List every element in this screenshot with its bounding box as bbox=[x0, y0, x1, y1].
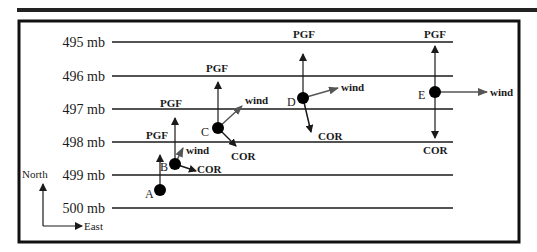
point-label: D bbox=[287, 95, 296, 109]
point-label: C bbox=[201, 125, 209, 139]
wind-label: wind bbox=[490, 86, 513, 98]
cor-label: COR bbox=[423, 144, 449, 156]
cor-label: COR bbox=[231, 150, 257, 162]
isobar-label: 500 mb bbox=[63, 201, 105, 216]
isobar-label: 496 mb bbox=[63, 69, 105, 84]
isobar-label: 499 mb bbox=[63, 168, 105, 183]
air-parcel-dot bbox=[429, 86, 441, 98]
point-e: E PGF wind COR bbox=[418, 28, 513, 156]
isobar-label: 497 mb bbox=[63, 102, 105, 117]
point-label: A bbox=[145, 187, 154, 201]
geostrophic-wind-diagram: 495 mb 496 mb 497 mb 498 mb 499 mb 500 m… bbox=[0, 0, 537, 252]
wind-label: wind bbox=[245, 94, 268, 106]
cor-label: COR bbox=[318, 130, 344, 142]
point-label: B bbox=[160, 160, 168, 174]
air-parcel-dot bbox=[154, 184, 166, 196]
air-parcel-dot bbox=[297, 92, 309, 104]
air-parcel-dot bbox=[169, 158, 181, 170]
compass-east-label: East bbox=[84, 220, 103, 232]
isobar-labels: 495 mb 496 mb 497 mb 498 mb 499 mb 500 m… bbox=[63, 35, 105, 216]
top-rule bbox=[17, 8, 537, 12]
isobar-label: 495 mb bbox=[63, 35, 105, 50]
pgf-label: PGF bbox=[293, 28, 315, 40]
air-parcel-dot bbox=[212, 122, 224, 134]
compass-north-label: North bbox=[22, 168, 48, 180]
point-d: D PGF wind COR bbox=[287, 28, 364, 142]
point-label: E bbox=[418, 88, 425, 102]
wind-label: wind bbox=[341, 81, 364, 93]
pgf-label: PGF bbox=[160, 97, 182, 109]
point-c: C PGF wind COR bbox=[201, 62, 268, 162]
wind-label: wind bbox=[186, 144, 209, 156]
isobar-label: 498 mb bbox=[63, 135, 105, 150]
pgf-label: PGF bbox=[146, 129, 168, 141]
pgf-label: PGF bbox=[424, 28, 446, 40]
isobars bbox=[112, 42, 453, 208]
pgf-label: PGF bbox=[206, 62, 228, 74]
cor-label: COR bbox=[197, 163, 223, 175]
